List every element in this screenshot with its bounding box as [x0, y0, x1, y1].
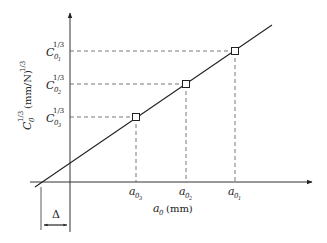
svg-text:(mm/N): (mm/N) [22, 70, 33, 109]
svg-text:2: 2 [57, 89, 61, 95]
svg-text:1/3: 1/3 [19, 61, 27, 72]
guide-lines [70, 51, 235, 182]
x-tick-3: a 0 3 [129, 185, 142, 201]
svg-text:0: 0 [159, 209, 164, 217]
x-tick-1: a 0 1 [228, 185, 241, 201]
calibration-diagram: Δ C 0 1 1/3 C 0 2 1/3 C 0 3 1/3 C 0 1/3 … [0, 0, 327, 243]
data-point-1 [232, 48, 239, 55]
svg-text:1/3: 1/3 [53, 107, 64, 115]
delta-label: Δ [52, 208, 60, 221]
svg-text:1/3: 1/3 [53, 41, 64, 49]
svg-text:3: 3 [139, 195, 142, 201]
y-tick-2: C 0 2 1/3 [46, 74, 64, 95]
svg-text:2: 2 [188, 195, 192, 201]
x-tick-2: a 0 2 [179, 185, 192, 201]
svg-text:1: 1 [238, 195, 241, 201]
data-point-3 [133, 114, 140, 121]
y-tick-3: C 0 3 1/3 [46, 107, 64, 128]
y-tick-1: C 0 1 1/3 [46, 41, 64, 62]
svg-text:1: 1 [58, 56, 61, 62]
y-axis-title: C 0 1/3 (mm/N) 1/3 [17, 61, 36, 130]
svg-text:3: 3 [58, 122, 61, 128]
data-point-2 [183, 81, 190, 88]
x-axis-title: a 0 (mm) [153, 202, 193, 217]
svg-text:1/3: 1/3 [53, 74, 64, 82]
svg-text:(mm): (mm) [166, 203, 193, 214]
svg-text:0: 0 [28, 117, 36, 122]
svg-text:1/3: 1/3 [17, 111, 25, 122]
